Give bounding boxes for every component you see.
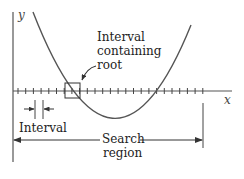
root-pointer-arrow — [82, 66, 96, 80]
x-axis-label: x — [224, 93, 231, 107]
y-axis-label: y — [17, 8, 25, 22]
interval-marker — [24, 100, 54, 119]
interval-label: Interval — [19, 121, 67, 135]
search-region-label-line1: Search — [102, 132, 145, 146]
root-interval-label-line1: Interval — [97, 30, 145, 44]
root-search-diagram: y x Interval containing root Interval Se… — [0, 0, 244, 179]
root-interval-label-line3: root — [97, 58, 122, 72]
root-interval-label-line2: containing — [97, 44, 162, 58]
search-region-label-line2: region — [103, 146, 143, 160]
